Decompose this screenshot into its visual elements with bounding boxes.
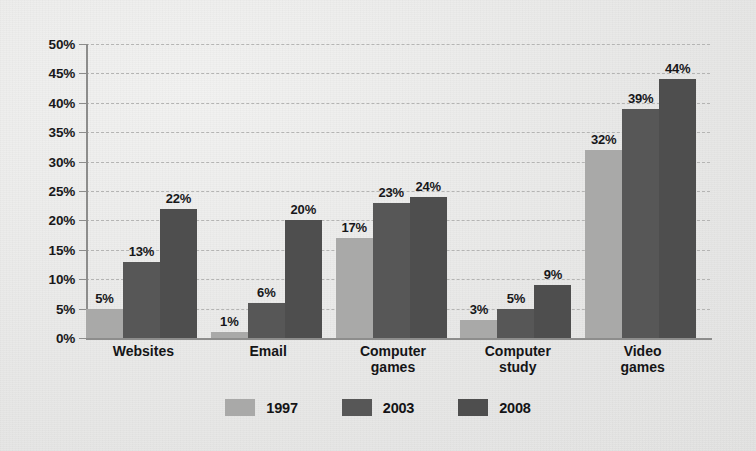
bar-value-label: 13% [129,244,154,259]
bar-2003-websites[interactable]: 13% [123,262,160,338]
bar-2008-computer-games[interactable]: 24% [410,197,447,338]
y-axis-tick-label: 30% [49,154,75,169]
bar-group: 5%13%22% [86,44,211,338]
bar-value-label: 44% [665,61,690,76]
bar-value-label: 6% [257,285,275,300]
bar-slot: 1% [211,44,248,338]
legend-item-2003[interactable]: 2003 [342,399,414,416]
category-label-video-games: Videogames [585,344,710,375]
legend-swatch-1997 [225,399,255,416]
bar-group: 32%39%44% [585,44,710,338]
bar-slot: 9% [534,44,571,338]
bar-slot: 5% [86,44,123,338]
y-axis-tick [79,220,86,221]
bar-value-label: 1% [220,314,238,329]
bar-value-label: 39% [628,91,653,106]
bar-value-label: 22% [166,191,191,206]
legend-swatch-2003 [342,399,372,416]
bar-value-label: 23% [378,185,403,200]
y-axis-tick-label: 50% [49,37,75,52]
y-axis-tick-label: 40% [49,95,75,110]
bar-2003-computer-games[interactable]: 23% [373,203,410,338]
bar-1997-video-games[interactable]: 32% [585,150,622,338]
bar-slot: 32% [585,44,622,338]
y-axis-tick-label: 20% [49,213,75,228]
legend-item-2008[interactable]: 2008 [458,399,530,416]
bar-groups: 5%13%22%1%6%20%17%23%24%3%5%9%32%39%44% [86,44,710,338]
bar-2003-email[interactable]: 6% [248,303,285,338]
bar-group: 17%23%24% [336,44,461,338]
bar-slot: 13% [123,44,160,338]
bar-2003-computer-study[interactable]: 5% [497,309,534,338]
bar-slot: 39% [622,44,659,338]
y-axis-tick [79,44,86,45]
bar-1997-websites[interactable]: 5% [86,309,123,338]
bar-slot: 17% [336,44,373,338]
y-axis-tick [79,191,86,192]
bar-2008-email[interactable]: 20% [285,220,322,338]
y-axis-tick [79,103,86,104]
y-axis-tick-label: 35% [49,125,75,140]
y-axis-tick-label: 10% [49,272,75,287]
category-label-websites: Websites [86,344,211,375]
y-axis-tick [79,132,86,133]
y-axis-tick [79,338,86,339]
y-axis-tick [79,73,86,74]
legend-item-1997[interactable]: 1997 [225,399,297,416]
bar-2008-video-games[interactable]: 44% [659,79,696,338]
bar-1997-computer-study[interactable]: 3% [460,320,497,338]
category-label-computer-games: Computergames [336,344,461,375]
legend-label-2003: 2003 [383,400,414,416]
legend-swatch-2008 [458,399,488,416]
plot-area: 0%5%10%15%20%25%30%35%40%45%50% 5%13%22%… [86,44,710,338]
legend-label-2008: 2008 [499,400,530,416]
bar-value-label: 5% [507,291,525,306]
legend-label-1997: 1997 [266,400,297,416]
bar-2008-websites[interactable]: 22% [160,209,197,338]
y-axis-tick [79,279,86,280]
x-axis-line [86,338,712,340]
bar-1997-email[interactable]: 1% [211,332,248,338]
y-axis-tick-label: 45% [49,66,75,81]
bar-slot: 44% [659,44,696,338]
bar-value-label: 3% [470,302,488,317]
category-label-computer-study: Computerstudy [460,344,585,375]
y-axis-tick [79,250,86,251]
bar-slot: 24% [410,44,447,338]
y-axis-tick [79,309,86,310]
grouped-bar-chart: 0%5%10%15%20%25%30%35%40%45%50% 5%13%22%… [0,0,756,451]
bar-value-label: 24% [415,179,440,194]
bar-value-label: 32% [591,132,616,147]
bar-slot: 3% [460,44,497,338]
x-axis-category-labels: WebsitesEmailComputergamesComputerstudyV… [86,344,710,375]
bar-group: 3%5%9% [460,44,585,338]
bar-slot: 6% [248,44,285,338]
bar-2008-computer-study[interactable]: 9% [534,285,571,338]
bar-slot: 22% [160,44,197,338]
bar-value-label: 5% [95,291,113,306]
chart-legend: 199720032008 [0,399,756,416]
bar-value-label: 20% [291,202,316,217]
bar-2003-video-games[interactable]: 39% [622,109,659,338]
bar-slot: 20% [285,44,322,338]
bar-group: 1%6%20% [211,44,336,338]
bar-1997-computer-games[interactable]: 17% [336,238,373,338]
y-axis-tick-label: 0% [56,331,75,346]
y-axis-tick-label: 25% [49,184,75,199]
y-axis-tick-label: 5% [56,301,75,316]
bar-slot: 5% [497,44,534,338]
category-label-email: Email [211,344,336,375]
bar-slot: 23% [373,44,410,338]
bar-value-label: 9% [544,267,562,282]
bar-value-label: 17% [341,220,366,235]
y-axis-tick-label: 15% [49,242,75,257]
y-axis-tick [79,162,86,163]
